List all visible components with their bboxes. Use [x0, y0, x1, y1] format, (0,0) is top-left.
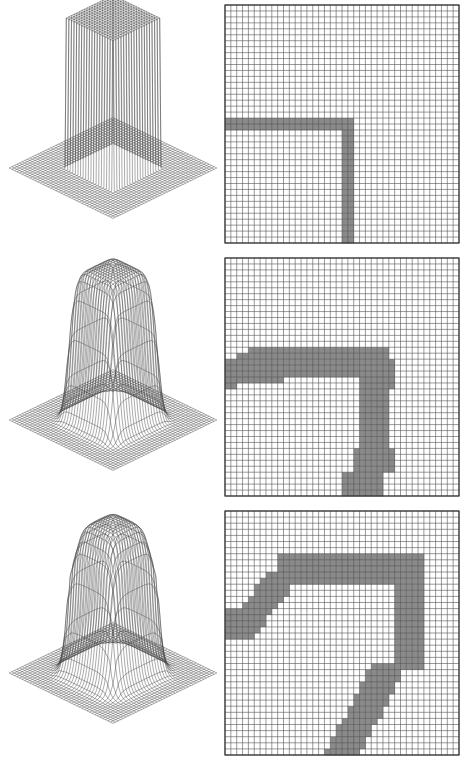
- grid-map-3: [224, 510, 460, 750]
- grid-map-1: [224, 4, 460, 244]
- surface-plot-2: [0, 252, 222, 502]
- surface-plot-3: [0, 505, 222, 755]
- grid-map-2: [224, 257, 460, 497]
- surface-plot-1: [0, 0, 222, 250]
